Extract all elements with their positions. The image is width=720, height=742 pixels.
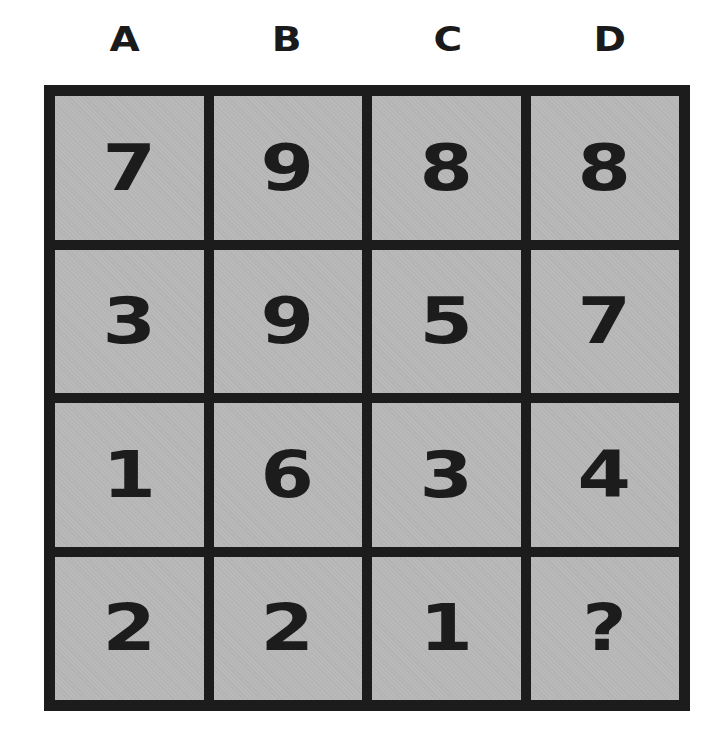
cell-value: 6 — [261, 438, 314, 512]
cell-c3: 3 — [372, 403, 521, 547]
column-header-c: C — [355, 14, 541, 64]
question-mark: ? — [582, 591, 627, 665]
cell-value: 5 — [420, 284, 473, 358]
cell-a2: 3 — [55, 250, 204, 394]
cell-value: 8 — [420, 131, 473, 205]
cell-d2: 7 — [531, 250, 680, 394]
column-header-a: A — [32, 14, 218, 64]
cell-d4-unknown: ? — [531, 557, 680, 701]
cell-b4: 2 — [214, 557, 363, 701]
column-header-d: D — [516, 14, 702, 64]
cell-value: 9 — [261, 131, 314, 205]
cell-value: 9 — [261, 284, 314, 358]
cell-value: 4 — [578, 438, 631, 512]
cell-value: 3 — [103, 284, 156, 358]
cell-c4: 1 — [372, 557, 521, 701]
cell-value: 1 — [420, 591, 473, 665]
cell-value: 7 — [578, 284, 631, 358]
cell-value: 1 — [103, 438, 156, 512]
cell-d3: 4 — [531, 403, 680, 547]
cell-b2: 9 — [214, 250, 363, 394]
cell-a4: 2 — [55, 557, 204, 701]
cell-value: 8 — [578, 131, 631, 205]
column-header-b: B — [193, 14, 379, 64]
cell-value: 7 — [103, 131, 156, 205]
cell-value: 3 — [420, 438, 473, 512]
number-puzzle-grid: 7 9 8 8 3 9 5 7 1 6 3 4 2 2 1 ? — [44, 85, 690, 711]
column-headers: A B C D — [44, 14, 690, 64]
cell-c1: 8 — [372, 96, 521, 240]
cell-b3: 6 — [214, 403, 363, 547]
cell-b1: 9 — [214, 96, 363, 240]
cell-a1: 7 — [55, 96, 204, 240]
cell-d1: 8 — [531, 96, 680, 240]
cell-value: 2 — [103, 591, 156, 665]
cell-c2: 5 — [372, 250, 521, 394]
cell-a3: 1 — [55, 403, 204, 547]
cell-value: 2 — [261, 591, 314, 665]
